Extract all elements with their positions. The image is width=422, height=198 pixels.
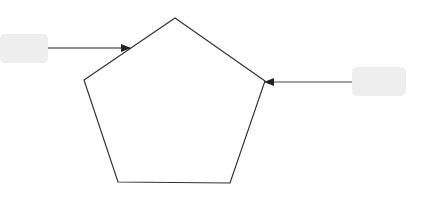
pentagon-shape [84, 18, 265, 183]
diagram-canvas [0, 0, 422, 198]
right-callout-label [352, 67, 406, 96]
left-callout-label [0, 34, 48, 63]
